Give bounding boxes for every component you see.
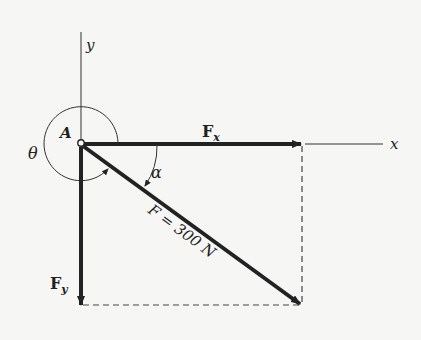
force-diagram: A y x θ α Fx Fy F = 300 N (0, 0, 421, 340)
fy-label: Fy (50, 274, 69, 296)
point-a-label: A (58, 124, 72, 142)
point-a-marker (78, 140, 84, 146)
alpha-label: α (151, 163, 162, 182)
x-axis-label: x (390, 135, 399, 153)
fx-label: Fx (202, 122, 220, 144)
force-arrow (83, 146, 300, 304)
theta-label: θ (28, 144, 38, 163)
y-axis-label: y (85, 36, 95, 54)
force-label: F = 300 N (144, 200, 220, 262)
